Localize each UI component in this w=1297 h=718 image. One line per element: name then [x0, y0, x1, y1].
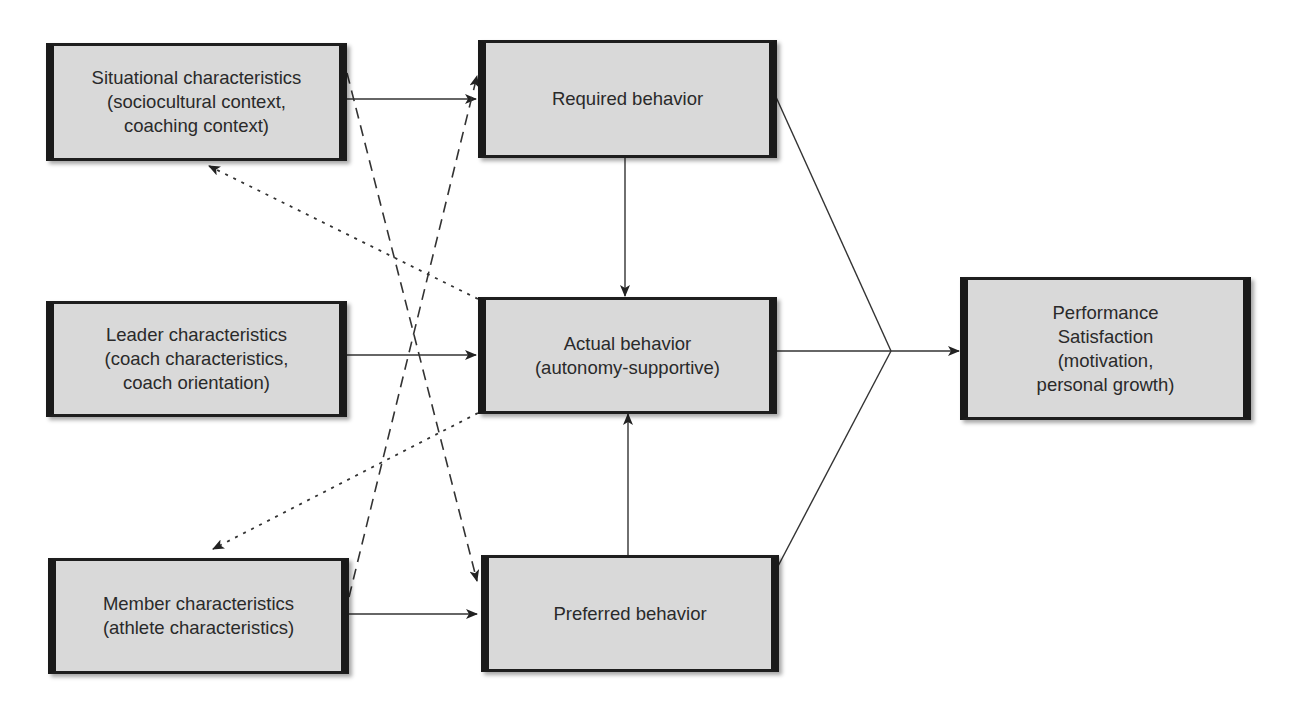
- edge-situational-to-preferred-dashed: [347, 73, 477, 581]
- edge-actual-to-member-dotted: [213, 413, 478, 549]
- edge-actual-to-situational-dotted: [209, 166, 478, 299]
- node-label: Required behavior: [552, 87, 703, 111]
- node-label: Member characteristics (athlete characte…: [103, 592, 294, 640]
- node-required-behavior: Required behavior: [478, 40, 777, 158]
- node-preferred-behavior: Preferred behavior: [481, 555, 779, 672]
- edge-preferred-to-convergence: [776, 351, 891, 570]
- node-label: Situational characteristics (sociocultur…: [92, 66, 302, 138]
- node-leader-characteristics: Leader characteristics (coach characteri…: [46, 301, 347, 417]
- node-situational-characteristics: Situational characteristics (sociocultur…: [46, 43, 347, 161]
- edge-required-to-convergence: [776, 97, 891, 351]
- node-label: Performance Satisfaction (motivation, pe…: [1037, 301, 1175, 397]
- node-actual-behavior: Actual behavior (autonomy-supportive): [478, 297, 777, 414]
- node-performance-satisfaction: Performance Satisfaction (motivation, pe…: [960, 277, 1251, 420]
- node-label: Preferred behavior: [553, 602, 706, 626]
- edge-member-to-required-dashed: [349, 76, 477, 597]
- node-member-characteristics: Member characteristics (athlete characte…: [48, 558, 349, 674]
- node-label: Actual behavior (autonomy-supportive): [535, 332, 720, 380]
- node-label: Leader characteristics (coach characteri…: [104, 323, 288, 395]
